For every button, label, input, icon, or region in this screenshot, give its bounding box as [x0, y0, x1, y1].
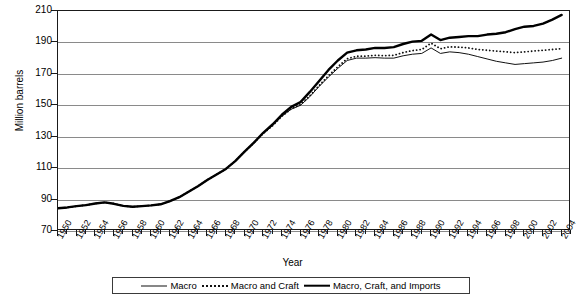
plot-area [57, 10, 570, 230]
series-line [58, 43, 562, 208]
legend-swatch-thick-line-icon [304, 282, 330, 290]
series-line [58, 48, 562, 208]
y-tick-label: 210 [12, 5, 52, 15]
legend-item-macro-craft-imports: Macro, Craft, and Imports [304, 280, 441, 291]
series-line [58, 15, 562, 208]
legend-swatch-thin-line-icon [141, 282, 167, 290]
y-tick-label: 110 [12, 162, 52, 172]
legend-swatch-dotted-line-icon [202, 282, 228, 290]
y-tick-label: 170 [12, 68, 52, 78]
legend-label: Macro, Craft, and Imports [333, 280, 441, 291]
x-axis-title: Year [0, 257, 585, 268]
line-chart: Million barrels 7090110130150170190210 1… [0, 0, 585, 299]
legend-item-macro: Macro [141, 280, 196, 291]
y-tick-label: 130 [12, 131, 52, 141]
y-tick-label: 70 [12, 225, 52, 235]
legend-label: Macro and Craft [231, 280, 299, 291]
y-tick-label: 90 [12, 194, 52, 204]
legend-item-macro-and-craft: Macro and Craft [202, 280, 299, 291]
chart-legend: Macro Macro and Craft Macro, Craft, and … [112, 277, 470, 294]
y-tick-label: 150 [12, 99, 52, 109]
legend-label: Macro [170, 280, 196, 291]
y-tick-label: 190 [12, 36, 52, 46]
series-lines [58, 11, 571, 231]
